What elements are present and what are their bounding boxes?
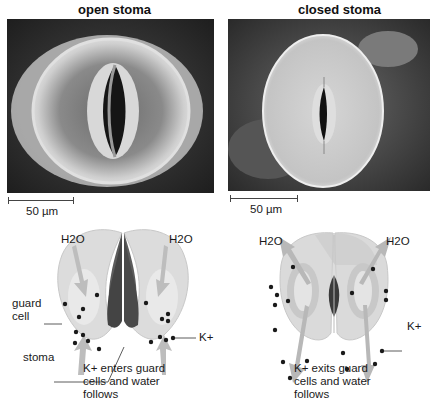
closed-scale-bar	[230, 198, 298, 199]
open-stoma-micrograph	[7, 19, 214, 193]
closed-caption: K+ exits guard cells and water follows	[294, 362, 371, 401]
open-caption-line2: cells and water	[83, 375, 165, 388]
water-formula: H2O	[169, 233, 193, 245]
guard-cell-label: guard cell	[12, 297, 41, 323]
open-ion-label: K+	[199, 331, 213, 344]
open-caption: K+ enters guard cells and water follows	[83, 362, 165, 401]
open-caption-line1: K+ enters guard	[83, 362, 165, 375]
closed-water-left-label: H2O	[259, 235, 283, 248]
stoma-label: stoma	[23, 351, 54, 364]
open-water-left-label: H2O	[61, 233, 85, 246]
closed-water-right-label: H2O	[386, 235, 410, 248]
closed-ion-label: K+	[407, 320, 421, 333]
closed-stoma-micrograph	[228, 19, 430, 191]
open-scale-label: 50 µm	[26, 205, 58, 218]
closed-caption-line1: K+ exits guard	[294, 362, 371, 375]
closed-stoma-title: closed stoma	[298, 2, 381, 17]
closed-caption-line3: follows	[294, 388, 371, 401]
closed-scale-label: 50 µm	[250, 203, 282, 216]
water-formula: H2O	[386, 235, 410, 247]
guard-cell-label-line1: guard	[12, 297, 41, 310]
open-scale-bar	[8, 200, 74, 201]
closed-caption-line2: cells and water	[294, 375, 371, 388]
open-caption-line3: follows	[83, 388, 165, 401]
open-water-right-label: H2O	[169, 233, 193, 246]
guard-cell-label-line2: cell	[12, 310, 41, 323]
water-formula: H2O	[259, 235, 283, 247]
open-stoma-title: open stoma	[78, 2, 151, 17]
water-formula: H2O	[61, 233, 85, 245]
